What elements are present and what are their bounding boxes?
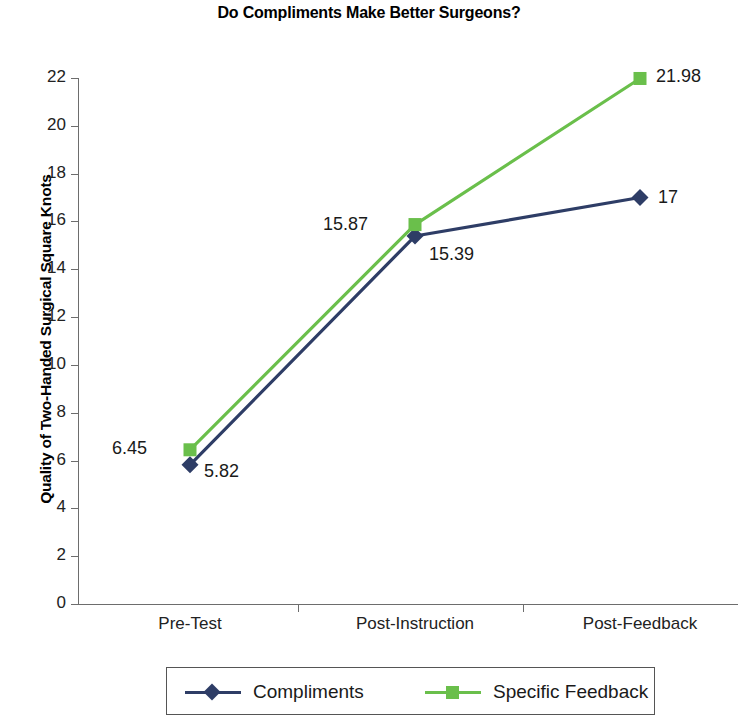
data-point-label: 6.45: [112, 438, 147, 459]
data-point-label: 5.82: [204, 461, 239, 482]
legend-label-specific-feedback: Specific Feedback: [493, 681, 648, 703]
data-point-label: 15.87: [323, 214, 368, 235]
legend-marker-diamond-icon: [185, 684, 241, 700]
chart-legend: Compliments Specific Feedback: [166, 667, 655, 715]
legend-item-compliments[interactable]: Compliments: [185, 678, 364, 706]
legend-marker-square-icon: [425, 684, 481, 700]
data-point-label: 15.39: [429, 244, 474, 265]
legend-label-compliments: Compliments: [253, 681, 364, 703]
data-point-label: 17: [658, 187, 678, 208]
data-point-square: [409, 218, 422, 231]
series-plot: [0, 0, 738, 715]
chart-figure: Do Compliments Make Better Surgeons? Qua…: [0, 0, 738, 715]
data-point-square: [634, 72, 647, 85]
data-point-label: 21.98: [656, 66, 701, 87]
data-point-diamond: [632, 189, 649, 206]
legend-item-specific-feedback[interactable]: Specific Feedback: [425, 678, 648, 706]
data-point-square: [184, 443, 197, 456]
